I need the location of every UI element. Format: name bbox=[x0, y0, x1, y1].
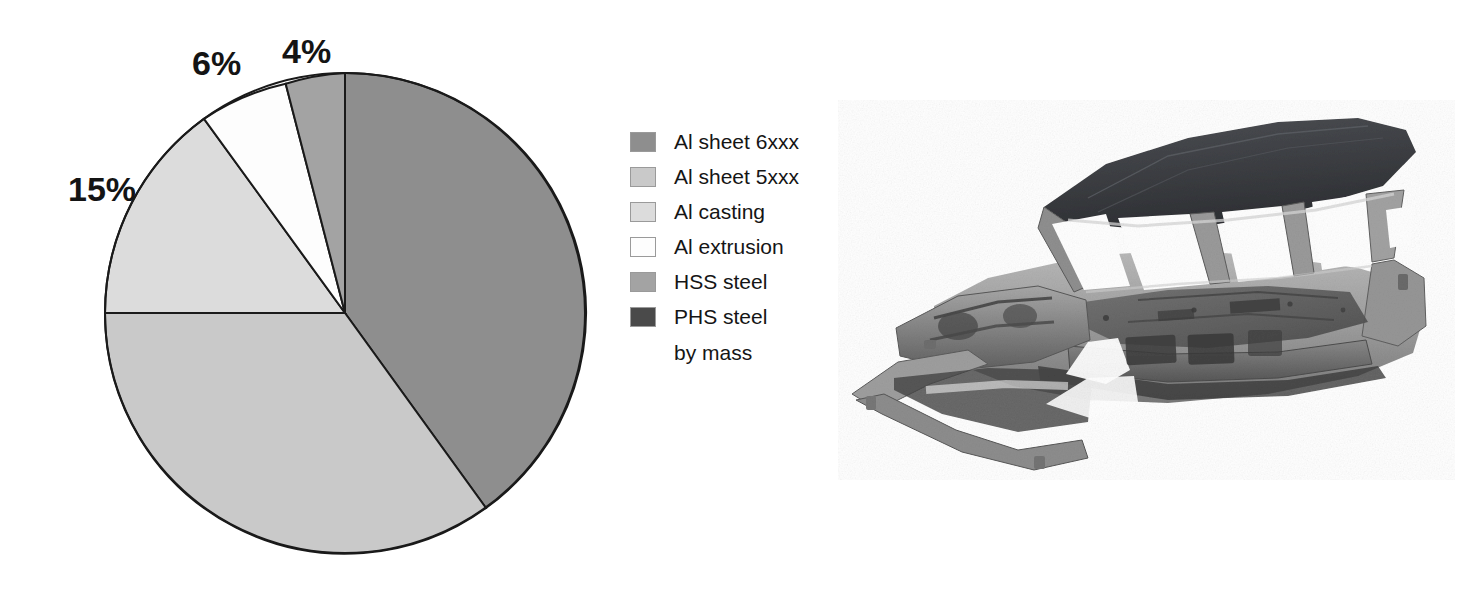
hardware-detail bbox=[1341, 308, 1346, 313]
legend-label: Al sheet 6xxx bbox=[674, 131, 799, 152]
car-body-photo: Vehicle body-in-white structure bbox=[838, 78, 1462, 480]
legend-item-al-extrusion[interactable]: Al extrusion bbox=[630, 229, 840, 264]
pie-chart-svg bbox=[0, 0, 610, 592]
side-cutout-2 bbox=[1187, 333, 1234, 365]
legend-item-al-sheet-5xxx[interactable]: Al sheet 5xxx bbox=[630, 159, 840, 194]
legend-label: Al casting bbox=[674, 201, 765, 222]
legend-swatch-icon bbox=[630, 202, 656, 222]
side-cutout-1 bbox=[1125, 335, 1176, 366]
pie-label-al-extrusion: 6% bbox=[192, 46, 241, 80]
legend-item-al-casting[interactable]: Al casting bbox=[630, 194, 840, 229]
pie-grain-overlay bbox=[106, 74, 584, 552]
pie-label-al-casting: 15% bbox=[68, 172, 136, 206]
chart-legend: Al sheet 6xxx Al sheet 5xxx Al casting A… bbox=[630, 124, 840, 363]
car-body-in-white-illustration bbox=[838, 78, 1462, 480]
hardware-detail bbox=[1191, 307, 1196, 312]
rear-vent-aperture bbox=[1386, 206, 1412, 248]
strut-tower-left bbox=[938, 312, 978, 340]
hardware-detail bbox=[1103, 315, 1109, 321]
legend-label: PHS steel bbox=[674, 306, 767, 327]
strut-tower-right bbox=[1003, 304, 1037, 328]
legend-swatch-icon bbox=[630, 307, 656, 327]
legend-label: HSS steel bbox=[674, 271, 767, 292]
legend-label: Al extrusion bbox=[674, 236, 784, 257]
legend-label: Al sheet 5xxx bbox=[674, 166, 799, 187]
pie-label-hss-steel: 4% bbox=[282, 34, 331, 68]
rear-bracket bbox=[1398, 274, 1408, 290]
hardware-detail bbox=[1287, 301, 1292, 306]
legend-swatch-icon bbox=[630, 272, 656, 292]
pie-chart-panel: 15% 6% 4% bbox=[0, 0, 610, 592]
legend-footnote: by mass bbox=[674, 342, 840, 363]
legend-item-phs-steel[interactable]: PHS steel bbox=[630, 299, 840, 334]
legend-swatch-icon bbox=[630, 167, 656, 187]
legend-swatch-icon bbox=[630, 237, 656, 257]
figure-root: 15% 6% 4% Al sheet 6xxx Al sheet 5xxx Al… bbox=[0, 0, 1472, 592]
subframe-mount bbox=[1034, 456, 1045, 469]
legend-item-al-sheet-6xxx[interactable]: Al sheet 6xxx bbox=[630, 124, 840, 159]
legend-swatch-icon bbox=[630, 132, 656, 152]
rear-quarter-panel bbox=[1362, 260, 1426, 346]
front-bracket bbox=[924, 340, 936, 349]
side-cutout-3 bbox=[1248, 330, 1282, 356]
bumper-mount-left bbox=[866, 396, 876, 410]
legend-item-hss-steel[interactable]: HSS steel bbox=[630, 264, 840, 299]
